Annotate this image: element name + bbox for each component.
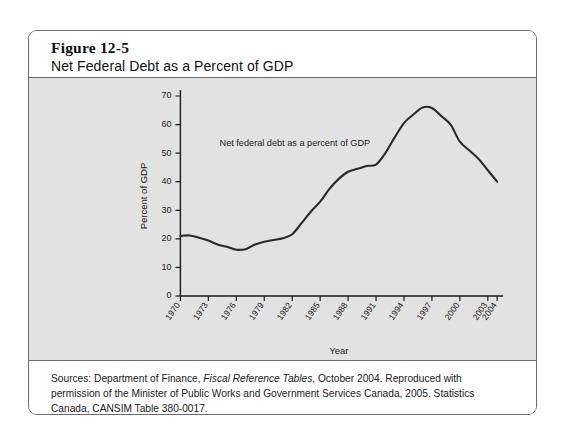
y-tick-label: 30: [161, 205, 171, 215]
x-tick-label: 1985: [303, 300, 322, 322]
y-tick-label: 0: [166, 290, 171, 300]
x-tick-label: 2000: [442, 300, 461, 322]
x-tick-label: 1994: [387, 300, 406, 322]
source-note: Sources: Department of Finance, Fiscal R…: [29, 360, 536, 414]
series-annotation: Net federal debt as a percent of GDP: [220, 138, 371, 148]
x-tick-label: 1976: [219, 300, 238, 322]
x-tick-label: 1991: [359, 300, 378, 322]
y-tick-label: 40: [161, 176, 171, 186]
y-axis: 010203040506070: [161, 90, 180, 300]
x-axis-title: Year: [329, 345, 348, 356]
x-tick-label: 1997: [414, 300, 433, 322]
data-series-line: [180, 107, 497, 250]
y-tick-label: 10: [161, 262, 171, 272]
source-prefix: Sources: Department of Finance,: [51, 373, 203, 384]
chart-plot-panel: 010203040506070 197019731976197919821985…: [29, 78, 536, 360]
y-tick-label: 20: [161, 233, 171, 243]
page-title: Net Federal Debt as a Percent of GDP: [51, 57, 536, 76]
x-tick-label: 1979: [247, 300, 266, 322]
x-tick-label: 1988: [331, 300, 350, 322]
x-tick-label: 1982: [275, 300, 294, 322]
source-italic-title: Fiscal Reference Tables: [203, 373, 312, 384]
source-text: Sources: Department of Finance, Fiscal R…: [51, 371, 512, 415]
x-tick-label: 1970: [163, 300, 182, 322]
x-axis: 1970197319761979198219851988199119941997…: [163, 296, 499, 322]
y-axis-title: Percent of GDP: [138, 163, 149, 229]
y-tick-label: 50: [161, 148, 171, 158]
y-tick-label: 60: [161, 119, 171, 129]
figure-box: Figure 12-5 Net Federal Debt as a Percen…: [28, 30, 537, 415]
y-tick-label: 70: [161, 90, 171, 100]
figure-number: Figure 12-5: [51, 38, 536, 57]
x-tick-label: 1973: [191, 300, 210, 322]
line-chart: 010203040506070 197019731976197919821985…: [29, 78, 536, 360]
figure-title-band: Figure 12-5 Net Federal Debt as a Percen…: [29, 31, 536, 78]
